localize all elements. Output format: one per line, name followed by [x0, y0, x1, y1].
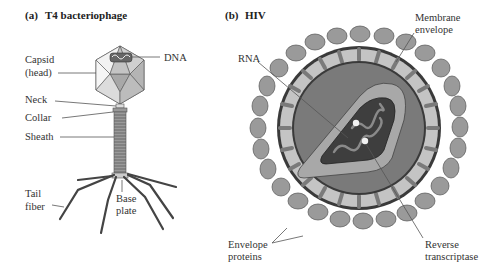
label-tail-fiber: fiber: [25, 201, 45, 212]
panel-a-letter: (a): [25, 9, 38, 22]
label-membrane: Membrane: [415, 12, 461, 23]
neck: [116, 104, 124, 108]
label-capsid: Capsid: [25, 54, 55, 65]
panel-b-letter: (b): [225, 9, 239, 22]
label-capsid-head: (head): [25, 67, 52, 79]
label-envelope: Envelope: [228, 239, 268, 250]
panel-b: (b) HIV: [225, 9, 478, 262]
label-base: Base: [116, 193, 137, 204]
label-reverse-transcriptase: transcriptase: [425, 251, 478, 262]
sheath: [114, 112, 126, 174]
label-tail: Tail: [25, 188, 41, 199]
virus-diagram: (a) T4 bacteriophage: [0, 0, 500, 276]
label-reverse: Reverse: [425, 239, 459, 250]
label-base-plate: plate: [116, 205, 137, 216]
panel-a-title: T4 bacteriophage: [45, 9, 127, 21]
panel-b-title: HIV: [245, 9, 266, 21]
panel-a: (a) T4 bacteriophage: [25, 9, 187, 233]
reverse-transcriptase-1: [353, 120, 359, 126]
label-sheath: Sheath: [25, 131, 54, 142]
label-rna: RNA: [238, 53, 261, 64]
label-neck: Neck: [25, 94, 48, 105]
label-membrane-envelope: envelope: [415, 24, 453, 35]
dna-coil: [110, 53, 132, 62]
label-envelope-proteins: proteins: [228, 251, 262, 262]
label-collar: Collar: [25, 112, 52, 123]
collar: [113, 108, 127, 112]
label-dna: DNA: [164, 52, 187, 63]
reverse-transcriptase-2: [362, 138, 368, 144]
